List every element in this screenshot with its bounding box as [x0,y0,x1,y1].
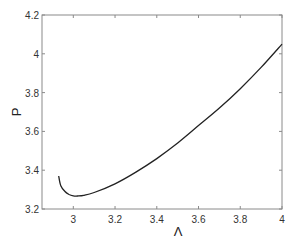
x-tick-label: 3 [71,214,77,225]
x-axis-label: Λ [174,224,183,239]
y-tick-label: 4.2 [25,10,39,21]
y-axis-label: P [9,108,24,117]
y-tick-label: 3.6 [25,126,39,137]
plot-area [42,15,282,209]
y-tick-label: 3.2 [25,204,39,215]
y-tick-label: 3.8 [25,88,39,99]
chart: 33.23.43.63.84 3.23.43.63.844.2 Λ P [0,0,301,241]
y-tick-label: 3.4 [25,165,39,176]
x-tick-label: 4 [279,214,285,225]
x-tick-label: 3.4 [150,214,164,225]
x-tick-label: 3.8 [233,214,247,225]
x-tick-label: 3.6 [192,214,206,225]
y-tick-label: 4 [33,49,39,60]
x-tick-label: 3.2 [108,214,122,225]
